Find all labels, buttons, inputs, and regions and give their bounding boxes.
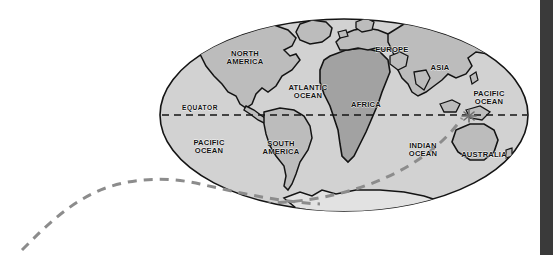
iceland-landmass: [338, 30, 348, 38]
world-map-svg: [0, 0, 553, 255]
page-edge-gap: [533, 0, 540, 255]
star-marker: [462, 110, 476, 122]
northeast-asia-landmass: [480, 32, 500, 48]
world-map-figure: NORTH AMERICA SOUTH AMERICA EUROPE ASIA …: [0, 0, 553, 255]
page-edge-shadow-band: [540, 0, 553, 255]
new-zealand-landmass: [506, 148, 512, 158]
